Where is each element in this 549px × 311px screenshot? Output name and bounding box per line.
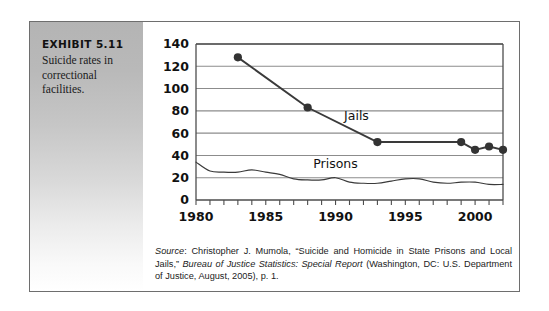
data-point-jails	[457, 138, 465, 146]
y-tick-label: 140	[163, 36, 189, 51]
x-tick-label: 1985	[248, 209, 283, 224]
suicide-rates-chart: 020406080100120140 19801985199019952000 …	[150, 32, 518, 237]
y-tick-label: 80	[172, 103, 190, 118]
y-tick-label: 60	[172, 126, 190, 141]
chart-svg: 020406080100120140 19801985199019952000 …	[150, 32, 518, 237]
annotation-jails: Jails	[343, 108, 369, 123]
exhibit-title: EXHIBIT 5.11	[42, 38, 140, 50]
x-tick-label: 2000	[458, 209, 493, 224]
y-axis-tick-labels: 020406080100120140	[163, 36, 189, 207]
exhibit-figure-frame: EXHIBIT 5.11 Suicide rates in correction…	[29, 21, 520, 292]
x-tick-label: 1980	[179, 209, 214, 224]
y-tick-label: 100	[163, 81, 189, 96]
data-point-jails	[499, 146, 507, 154]
y-tick-label: 20	[172, 170, 190, 185]
data-point-jails	[485, 142, 493, 150]
series-annotations: JailsPrisons	[313, 108, 369, 171]
source-label: Source	[155, 246, 184, 256]
source-publication-title: Bureau of Justice Statistics: Special Re…	[182, 259, 362, 269]
data-point-jails	[234, 53, 242, 61]
exhibit-description: Suicide rates in correctional facilities…	[42, 53, 140, 97]
y-tick-label: 120	[163, 59, 189, 74]
x-axis-tick-labels: 19801985199019952000	[179, 209, 493, 224]
exhibit-caption-panel: EXHIBIT 5.11 Suicide rates in correction…	[30, 22, 143, 291]
data-point-jails	[471, 146, 479, 154]
x-tick-label: 1990	[318, 209, 353, 224]
y-tick-label: 40	[172, 148, 190, 163]
data-point-jails	[373, 138, 381, 146]
source-caption: Source: Christopher J. Mumola, “Suicide …	[155, 245, 512, 283]
exhibit-text-wrapper: EXHIBIT 5.11 Suicide rates in correction…	[42, 38, 140, 97]
y-tick-label: 0	[180, 192, 189, 207]
annotation-prisons: Prisons	[313, 156, 358, 171]
x-axis-tick-marks	[196, 200, 503, 205]
series-line-jails	[238, 57, 503, 149]
x-tick-label: 1995	[388, 209, 423, 224]
data-point-jails	[304, 103, 312, 111]
